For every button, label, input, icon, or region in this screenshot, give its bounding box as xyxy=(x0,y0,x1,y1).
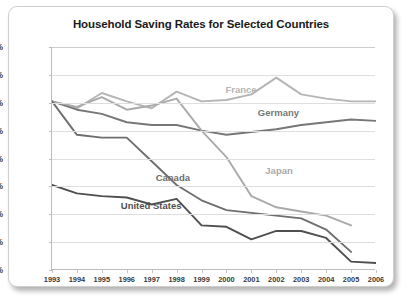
y-axis-tick xyxy=(49,103,52,104)
x-axis-tick xyxy=(251,270,252,273)
series-label-france: France xyxy=(225,84,256,95)
y-axis-label: 14% xyxy=(0,70,3,80)
y-axis-label: 2% xyxy=(0,237,3,247)
x-axis-tick xyxy=(276,270,277,273)
gridline xyxy=(52,47,375,48)
y-axis-tick xyxy=(49,186,52,187)
y-axis-label: 12% xyxy=(0,98,3,108)
y-axis-label: 10% xyxy=(0,126,3,136)
x-axis-tick xyxy=(226,270,227,273)
series-line-united-states xyxy=(52,185,376,263)
x-axis-tick xyxy=(326,270,327,273)
x-axis-tick xyxy=(301,270,302,273)
y-axis-label: 0% xyxy=(0,265,3,275)
gridline xyxy=(52,75,375,76)
x-axis-tick xyxy=(77,270,78,273)
gridline xyxy=(52,214,375,215)
y-axis-tick xyxy=(49,47,52,48)
y-axis-label: 6% xyxy=(0,181,3,191)
x-axis-tick xyxy=(152,270,153,273)
x-axis-tick xyxy=(52,270,53,273)
x-axis-tick xyxy=(351,270,352,273)
y-axis-tick xyxy=(49,131,52,132)
series-label-germany: Germany xyxy=(258,107,299,118)
series-label-canada: Canada xyxy=(156,172,190,183)
y-axis-label: 8% xyxy=(0,154,3,164)
gridline xyxy=(52,186,375,187)
gridline xyxy=(52,159,375,160)
y-axis-tick xyxy=(49,159,52,160)
x-axis-tick xyxy=(177,270,178,273)
series-line-japan xyxy=(52,97,351,225)
chart-title: Household Saving Rates for Selected Coun… xyxy=(9,18,393,30)
x-axis-tick xyxy=(127,270,128,273)
x-axis-tick xyxy=(202,270,203,273)
y-axis-tick xyxy=(49,242,52,243)
gridline xyxy=(52,131,375,132)
gridline xyxy=(52,242,375,243)
y-axis-label: 4% xyxy=(0,209,3,219)
plot-area: 0%2%4%6%8%10%12%14%16%199319941995199619… xyxy=(51,47,375,270)
y-axis-tick xyxy=(49,214,52,215)
x-axis-tick xyxy=(102,270,103,273)
series-label-japan: Japan xyxy=(265,165,292,176)
series-label-united-states: United States xyxy=(121,200,182,211)
x-axis-label: 2006 xyxy=(359,275,393,284)
gridline xyxy=(52,103,375,104)
y-axis-tick xyxy=(49,75,52,76)
chart-card: Household Saving Rates for Selected Coun… xyxy=(8,6,394,287)
x-axis-tick xyxy=(376,270,377,273)
y-axis-label: 16% xyxy=(0,42,3,52)
